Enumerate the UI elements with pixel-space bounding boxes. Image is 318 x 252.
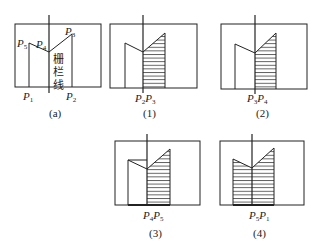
panel-1 [110, 15, 197, 93]
fence-line-label: 栅 栏 线 [53, 53, 65, 92]
label-p5: P5 [17, 38, 27, 51]
panel-3 [115, 134, 200, 206]
panel-4 [220, 134, 304, 206]
caption-a: (a) [49, 108, 61, 119]
caption-3: (3) [149, 228, 162, 239]
label-p4: P4 [36, 39, 46, 52]
panel-2 [221, 15, 307, 94]
label-p3-p4: P3P4 [247, 93, 267, 106]
label-p3: P3 [65, 26, 75, 39]
caption-1: (1) [143, 108, 156, 119]
label-p4-p5: P4P5 [143, 210, 163, 223]
label-p2-p3: P2P3 [135, 93, 155, 106]
label-p1: P1 [23, 91, 33, 104]
caption-4: (4) [253, 228, 266, 239]
label-p2: P2 [66, 91, 76, 104]
caption-2: (2) [256, 108, 269, 119]
label-p5-p1: P5P1 [249, 210, 269, 223]
